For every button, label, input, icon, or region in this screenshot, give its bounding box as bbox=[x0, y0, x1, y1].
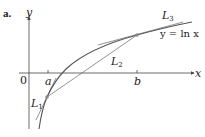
line-label-l3: L3 bbox=[162, 10, 174, 23]
panel-label: a. bbox=[3, 8, 11, 19]
origin-label: 0 bbox=[20, 75, 27, 86]
secant-line-l2 bbox=[47, 35, 137, 97]
tick-label-a: a bbox=[45, 76, 52, 87]
point-b bbox=[135, 33, 139, 37]
x-axis-label: x bbox=[195, 68, 201, 79]
line-label-l2: L2 bbox=[111, 56, 123, 69]
tick-label-b: b bbox=[134, 76, 141, 87]
function-label: y = ln x bbox=[160, 29, 199, 39]
point-a bbox=[45, 95, 49, 99]
line-label-l1: L1 bbox=[31, 98, 43, 111]
y-axis-label: y bbox=[26, 7, 32, 18]
concavity-diagram bbox=[0, 0, 205, 137]
